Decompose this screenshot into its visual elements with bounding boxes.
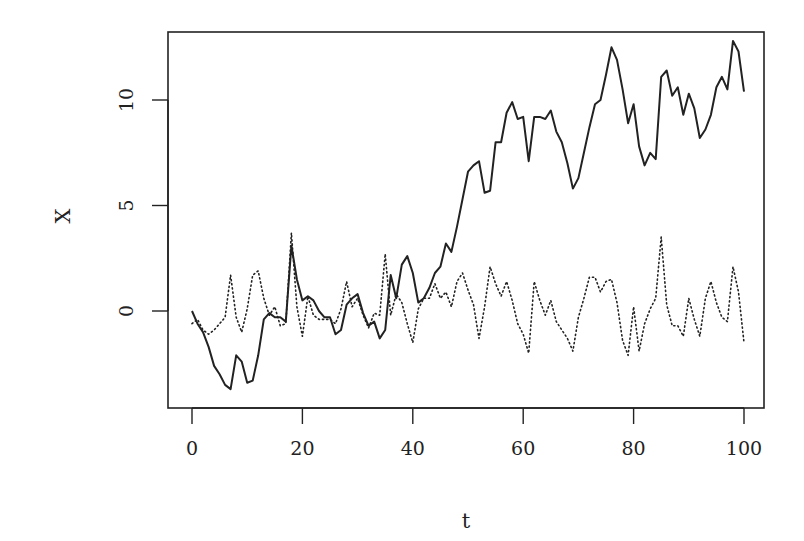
x-tick-label: 20 — [290, 437, 314, 459]
y-tick-label: 10 — [115, 88, 137, 112]
series-layer — [192, 41, 744, 389]
y-axis-title: X — [51, 208, 75, 223]
x-tick-label: 40 — [401, 437, 425, 459]
dotted-series-line — [192, 233, 744, 355]
y-tick-label: 0 — [115, 305, 137, 317]
x-axis-title: t — [462, 509, 471, 533]
chart: 020406080100 0510 t X — [0, 0, 804, 541]
x-tick-label: 60 — [511, 437, 535, 459]
y-tick-label: 5 — [115, 199, 137, 211]
plot-frame — [168, 32, 764, 408]
x-tick-label: 0 — [186, 437, 198, 459]
x-axis: 020406080100 — [186, 408, 762, 459]
solid-series-line — [192, 41, 744, 389]
x-tick-label: 100 — [726, 437, 762, 459]
x-tick-label: 80 — [622, 437, 646, 459]
y-axis: 0510 — [115, 88, 168, 317]
